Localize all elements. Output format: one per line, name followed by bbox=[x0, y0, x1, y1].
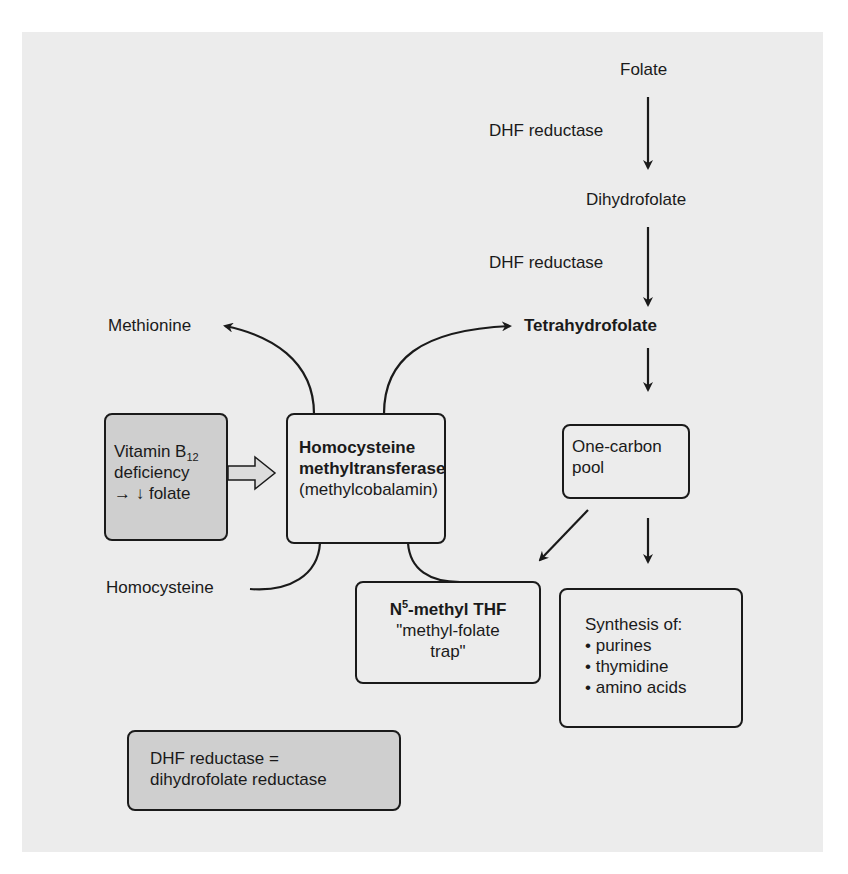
b12-line3: → ↓ folate bbox=[114, 483, 226, 504]
n5-post: -methyl THF bbox=[408, 600, 506, 619]
label-folate: Folate bbox=[620, 60, 667, 80]
label-dihydrofolate: Dihydrofolate bbox=[586, 190, 686, 210]
enzyme-line1: Homocysteine bbox=[299, 437, 444, 458]
label-homocysteine: Homocysteine bbox=[106, 578, 214, 598]
legend-line2: dihydrofolate reductase bbox=[150, 769, 399, 790]
arrow-onecarbon-n5 bbox=[540, 510, 588, 560]
hollow-arrow-b12-to-enzyme bbox=[228, 457, 275, 489]
synthesis-title: Synthesis of: bbox=[585, 614, 741, 635]
n5-pre: N bbox=[390, 600, 402, 619]
b12-line2: deficiency bbox=[114, 462, 226, 483]
label-dhf-reductase-1: DHF reductase bbox=[489, 121, 603, 141]
synthesis-item: • amino acids bbox=[585, 677, 741, 698]
n5-line2: "methyl-folate bbox=[357, 620, 539, 641]
curve-homocysteine bbox=[250, 543, 320, 589]
curve-n5 bbox=[408, 543, 460, 582]
onecarbon-line1: One-carbon bbox=[572, 436, 688, 457]
vitamin-b12-deficiency-box: Vitamin B12 deficiency → ↓ folate bbox=[104, 413, 228, 541]
b12-line1: Vitamin B bbox=[114, 442, 186, 461]
dhf-reductase-legend-box: DHF reductase = dihydrofolate reductase bbox=[127, 730, 401, 811]
arrow-to-methionine bbox=[225, 326, 314, 414]
legend-line1: DHF reductase = bbox=[150, 748, 399, 769]
synthesis-item: • purines bbox=[585, 635, 741, 656]
homocysteine-methyltransferase-box: Homocysteine methyltransferase (methylco… bbox=[286, 413, 446, 544]
onecarbon-line2: pool bbox=[572, 457, 688, 478]
one-carbon-pool-box: One-carbon pool bbox=[562, 424, 690, 499]
enzyme-line2: methyltransferase bbox=[299, 458, 444, 479]
enzyme-line3: (methylcobalamin) bbox=[299, 479, 444, 500]
synthesis-box: Synthesis of: • purines • thymidine • am… bbox=[559, 588, 743, 728]
label-methionine: Methionine bbox=[108, 316, 191, 336]
n5-line3: trap" bbox=[357, 641, 539, 662]
arrow-to-thf bbox=[384, 326, 510, 414]
n5-methyl-thf-box: N5-methyl THF "methyl-folate trap" bbox=[355, 581, 541, 684]
label-tetrahydrofolate: Tetrahydrofolate bbox=[524, 316, 657, 336]
label-dhf-reductase-2: DHF reductase bbox=[489, 253, 603, 273]
synthesis-item: • thymidine bbox=[585, 656, 741, 677]
